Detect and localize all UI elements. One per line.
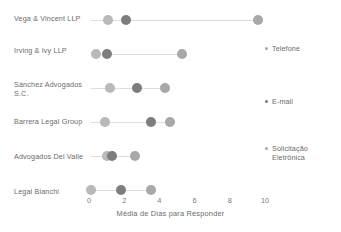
data-point-telefone[interactable] — [86, 185, 96, 195]
x-tick-label: 6 — [193, 196, 197, 205]
data-point-solicita-o-eletr-nica[interactable] — [146, 185, 156, 195]
dot-plot-chart: Vega & Vincent LLP Irving & Ivy LLP Sánc… — [0, 0, 341, 232]
row-connector-line — [91, 20, 258, 21]
data-point-telefone[interactable] — [100, 117, 110, 127]
data-point-telefone[interactable] — [91, 49, 101, 59]
legend-item-email[interactable]: E-mail — [272, 97, 341, 106]
category-label-irving-ivy: Irving & Ivy LLP — [14, 46, 86, 55]
x-axis-title: Média de Dias para Responder — [0, 209, 341, 218]
row-connector-line — [91, 88, 165, 89]
x-tick-label: 8 — [228, 196, 232, 205]
legend-label-email: E-mail — [272, 97, 293, 106]
legend-swatch-telefone — [265, 47, 268, 50]
legend-item-solicitacao-eletronica[interactable]: Solicitação Eletrônica — [272, 144, 341, 162]
x-tick-label: 10 — [261, 196, 269, 205]
category-label-barrera: Barrera Legal Group — [14, 117, 86, 126]
data-point-e-mail[interactable] — [146, 117, 156, 127]
x-axis: 0246810 — [89, 196, 265, 210]
category-label-vega-vincent: Vega & Vincent LLP — [14, 14, 86, 23]
legend-item-telefone[interactable]: Telefone — [272, 44, 341, 53]
data-point-e-mail[interactable] — [116, 185, 126, 195]
legend-swatch-solicitacao-eletronica — [265, 147, 268, 150]
data-point-solicita-o-eletr-nica[interactable] — [160, 83, 170, 93]
x-tick-label: 0 — [87, 196, 91, 205]
legend-label-solicitacao-eletronica: Solicitação Eletrônica — [272, 144, 308, 162]
data-point-e-mail[interactable] — [132, 83, 142, 93]
legend-label-telefone: Telefone — [272, 44, 300, 53]
data-point-e-mail[interactable] — [102, 49, 112, 59]
data-point-e-mail[interactable] — [121, 15, 131, 25]
data-point-solicita-o-eletr-nica[interactable] — [130, 151, 140, 161]
category-label-advogados-del-valle: Advogados Del Valle — [14, 152, 86, 161]
data-point-solicita-o-eletr-nica[interactable] — [253, 15, 263, 25]
data-point-solicita-o-eletr-nica[interactable] — [177, 49, 187, 59]
data-point-telefone[interactable] — [103, 15, 113, 25]
category-label-sanchez: Sánchez Advogados S.C. — [14, 80, 86, 98]
data-point-e-mail[interactable] — [107, 151, 117, 161]
x-tick-label: 2 — [122, 196, 126, 205]
category-label-legal-bianchi: Legal Bianchi — [14, 187, 86, 196]
x-tick-label: 4 — [157, 196, 161, 205]
legend-swatch-email — [265, 100, 268, 103]
data-point-telefone[interactable] — [105, 83, 115, 93]
plot-area — [89, 6, 265, 196]
data-point-solicita-o-eletr-nica[interactable] — [165, 117, 175, 127]
